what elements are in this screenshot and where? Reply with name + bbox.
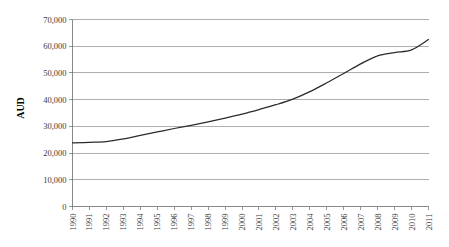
line-chart: 010,00020,00030,00040,00050,00060,00070,… (0, 0, 449, 247)
chart-container: 010,00020,00030,00040,00050,00060,00070,… (0, 0, 449, 247)
y-tick-label-50000: 50,000 (43, 68, 66, 78)
y-tick-label-30000: 30,000 (43, 121, 66, 131)
data-series (73, 40, 429, 143)
x-tick-label-1997: 1997 (186, 214, 196, 231)
y-tick-label-40000: 40,000 (43, 95, 66, 105)
x-tick-label-2000: 2000 (237, 214, 247, 231)
x-tick-label-1990: 1990 (68, 214, 78, 231)
x-tick-label-2005: 2005 (322, 214, 332, 231)
y-tick-label-70000: 70,000 (43, 15, 66, 25)
x-tick-label-1998: 1998 (203, 214, 213, 231)
x-tick-label-2008: 2008 (373, 214, 383, 231)
y-tick-label-20000: 20,000 (43, 148, 66, 158)
x-tick-label-1995: 1995 (152, 214, 162, 231)
y-axis-tick-labels: 010,00020,00030,00040,00050,00060,00070,… (43, 15, 66, 212)
x-tick-label-1994: 1994 (135, 213, 145, 231)
y-tick-label-10000: 10,000 (43, 175, 66, 185)
x-axis-tick-labels: 1990199119921993199419951996199719981999… (68, 213, 434, 231)
y-axis-title: AUD (15, 97, 26, 119)
x-tick-label-1991: 1991 (84, 214, 94, 231)
axis-tickmarks (69, 20, 429, 211)
x-tick-label-1999: 1999 (220, 214, 230, 231)
series-line-aud (73, 40, 429, 143)
x-tick-label-2006: 2006 (339, 214, 349, 231)
x-tick-label-2007: 2007 (356, 214, 366, 231)
gridlines (73, 20, 429, 180)
x-tick-label-1993: 1993 (118, 214, 128, 231)
x-tick-label-2003: 2003 (288, 214, 298, 231)
x-tick-label-2001: 2001 (254, 214, 264, 231)
x-tick-label-2009: 2009 (390, 214, 400, 231)
x-tick-label-2004: 2004 (305, 213, 315, 231)
x-tick-label-1992: 1992 (101, 214, 111, 231)
x-tick-label-2011: 2011 (424, 214, 434, 231)
x-tick-label-1996: 1996 (169, 214, 179, 231)
x-tick-label-2002: 2002 (271, 214, 281, 231)
y-tick-label-0: 0 (62, 202, 66, 212)
x-tick-label-2010: 2010 (407, 214, 417, 231)
plot-frame (73, 20, 429, 207)
y-tick-label-60000: 60,000 (43, 41, 66, 51)
